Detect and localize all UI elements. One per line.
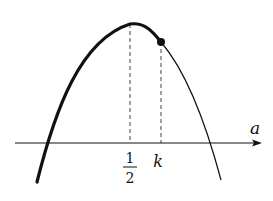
- half-denominator: 2: [126, 170, 135, 186]
- point-at-k: [157, 38, 165, 46]
- axis-label: a: [250, 118, 260, 138]
- parabola-thin-segment: [161, 42, 221, 180]
- parabola-thick-segment: [37, 24, 161, 182]
- k-label: k: [153, 152, 163, 171]
- parabola-diagram: a 1 2 k: [0, 0, 273, 201]
- half-numerator: 1: [126, 150, 135, 166]
